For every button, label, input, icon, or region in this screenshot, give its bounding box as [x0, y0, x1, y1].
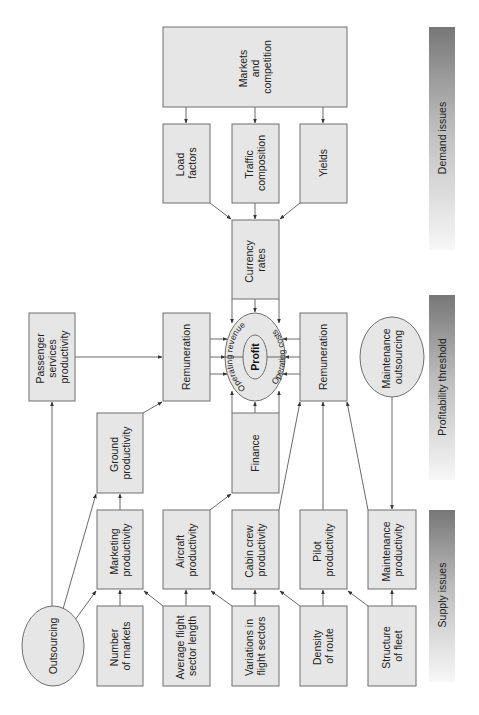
node-density-of-route: Density of route	[300, 606, 347, 686]
svg-text:Average flight sector le: Average flight sector length	[174, 613, 198, 680]
svg-text:Maintenance outsourcing: Maintenance outsourcing	[380, 325, 404, 388]
svg-text:Yields: Yields	[317, 149, 329, 177]
band-profitability: Profitability threshold	[429, 295, 455, 480]
svg-text:Remuneration: Remuneration	[317, 324, 329, 390]
node-maintenance-outsourcing: Maintenance outsourcing	[360, 317, 424, 397]
profit-factors-diagram: Demand issues Profitability threshold Su…	[0, 0, 479, 715]
node-variations-flight-sectors: Variations in flight sectors	[232, 606, 279, 686]
svg-text:Maintenance productivity: Maintenance productivity	[380, 518, 404, 581]
node-aircraft-productivity: Aircraft productivity	[163, 510, 210, 589]
node-currency-rates: Currency rates	[232, 220, 279, 299]
node-finance: Finance	[232, 413, 279, 493]
svg-text:Number of markets: Number of markets	[108, 621, 132, 670]
node-load-factors: Load factors	[163, 124, 210, 203]
band-demand: Demand issues	[429, 27, 455, 250]
svg-text:Remuneration: Remuneration	[180, 324, 192, 390]
profit-label: Profit	[249, 343, 261, 371]
node-passenger-services: Passenger services productivity	[29, 313, 75, 401]
svg-text:Variations in flight sec: Variations in flight sectors	[243, 616, 267, 676]
svg-text:Cabin crew productivity: Cabin crew productivity	[243, 522, 267, 577]
node-markets-competition: Markets and competition	[163, 27, 347, 107]
node-avg-flight-sector: Average flight sector length	[163, 606, 210, 686]
band-profitability-label: Profitability threshold	[436, 338, 448, 436]
svg-text:Load factors: Load factors	[174, 147, 198, 179]
band-supply-label: Supply issues	[436, 563, 448, 628]
svg-text:Marketing productivity: Marketing productivity	[108, 523, 132, 577]
node-remuneration-bottom: Remuneration	[300, 313, 347, 401]
node-ground-productivity: Ground productivity	[97, 413, 143, 493]
node-structure-of-fleet: Structure of fleet	[368, 606, 416, 686]
band-supply: Supply issues	[429, 510, 455, 682]
node-traffic-composition: Traffic composition	[232, 124, 279, 203]
node-yields: Yields	[300, 124, 347, 203]
svg-text:Density of route: Density of route	[311, 627, 335, 665]
svg-text:Finance: Finance	[249, 434, 261, 472]
svg-text:Outsourcing: Outsourcing	[47, 618, 59, 675]
node-remuneration-top: Remuneration	[163, 313, 210, 401]
band-demand-label: Demand issues	[436, 102, 448, 174]
node-pilot-productivity: Pilot productivity	[300, 510, 347, 589]
node-profit: Profit Operating revenue Operating costs	[214, 313, 287, 401]
node-marketing-productivity: Marketing productivity	[97, 510, 143, 589]
node-outsourcing: Outsourcing	[22, 606, 84, 686]
svg-text:Passenger services: Passenger services productivity	[34, 330, 70, 384]
node-cabin-crew-productivity: Cabin crew productivity	[232, 510, 279, 589]
node-maintenance-productivity: Maintenance productivity	[368, 510, 416, 589]
node-number-of-markets: Number of markets	[97, 606, 143, 686]
